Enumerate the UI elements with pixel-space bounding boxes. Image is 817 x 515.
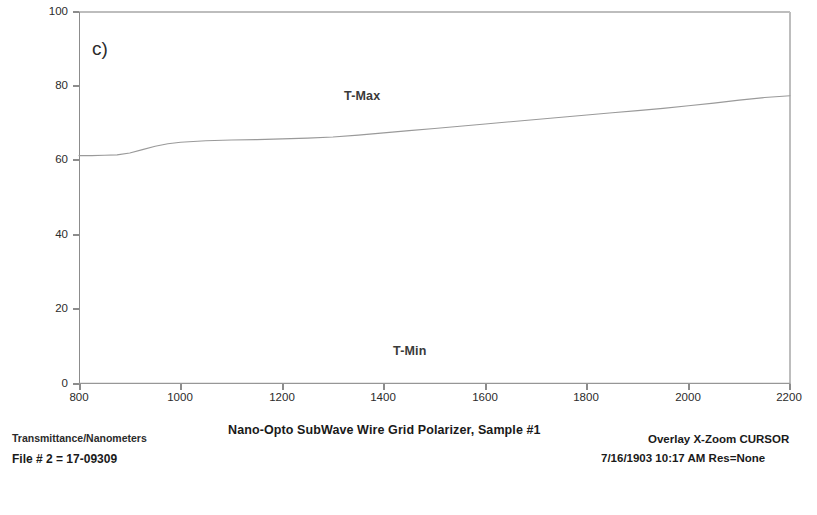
- x-tick-800: [79, 384, 81, 390]
- x-tick-1400: [383, 384, 385, 390]
- x-tick-2200: [789, 384, 791, 390]
- x-tick-label-2200: 2200: [759, 391, 817, 403]
- x-tick-label-1200: 1200: [252, 391, 312, 403]
- x-tick-label-1000: 1000: [150, 391, 210, 403]
- x-tick-label-1800: 1800: [556, 391, 616, 403]
- y-tick-label-20: 20: [22, 302, 68, 314]
- series-label-t-max: T-Max: [344, 89, 380, 103]
- chart-figure: 100 80 60 40 20 0 800 1000 1200 1400 160…: [0, 0, 817, 515]
- x-tick-1800: [586, 384, 588, 390]
- x-tick-1600: [485, 384, 487, 390]
- axis-caption: Transmittance/Nanometers: [12, 432, 147, 444]
- y-tick-label-40: 40: [22, 228, 68, 240]
- y-tick-label-0: 0: [22, 377, 68, 389]
- x-tick-2000: [688, 384, 690, 390]
- x-tick-label-800: 800: [49, 391, 109, 403]
- x-tick-label-2000: 2000: [658, 391, 718, 403]
- timestamp-label: 7/16/1903 10:17 AM Res=None: [601, 452, 765, 464]
- series-line-t-max: [79, 96, 790, 156]
- y-tick-label-100: 100: [22, 5, 68, 17]
- file-label: File # 2 = 17-09309: [12, 452, 117, 466]
- data-curves: [79, 12, 790, 384]
- chart-title: Nano-Opto SubWave Wire Grid Polarizer, S…: [228, 423, 541, 437]
- x-tick-label-1600: 1600: [455, 391, 515, 403]
- x-tick-1200: [282, 384, 284, 390]
- series-label-t-min: T-Min: [393, 344, 427, 358]
- y-tick-label-80: 80: [22, 79, 68, 91]
- x-tick-1000: [180, 384, 182, 390]
- y-tick-label-60: 60: [22, 153, 68, 165]
- overlay-mode-label: Overlay X-Zoom CURSOR: [648, 433, 789, 445]
- x-tick-label-1400: 1400: [353, 391, 413, 403]
- panel-label: c): [92, 38, 108, 60]
